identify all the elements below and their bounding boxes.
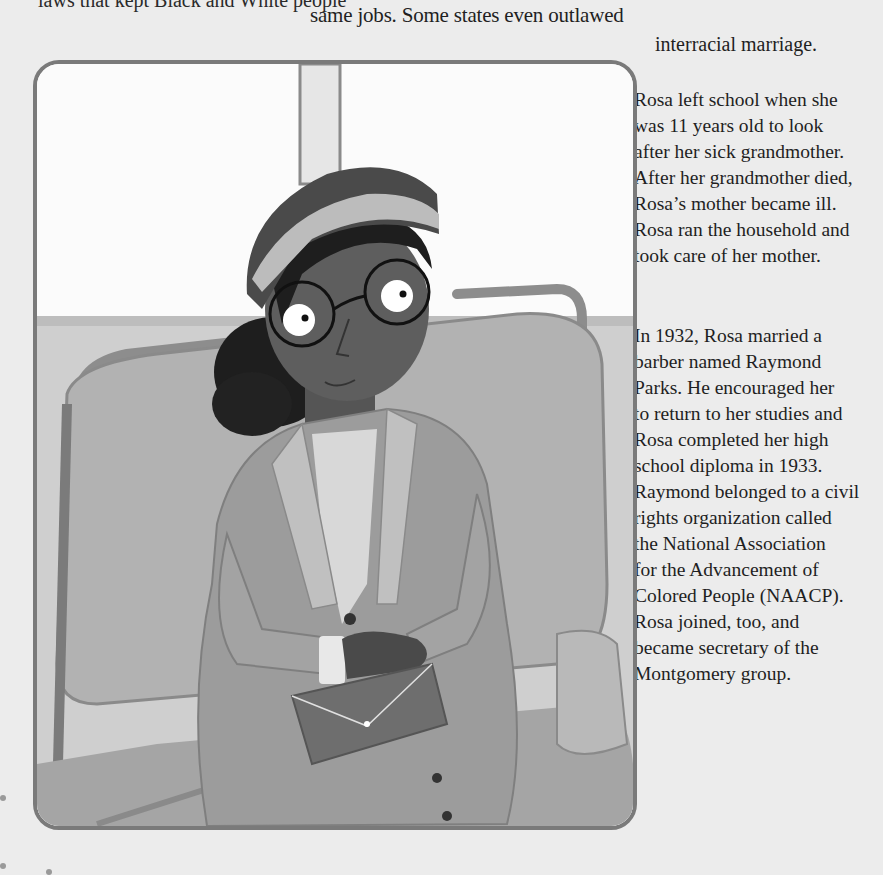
text-line: Raymond belonged to a civil [634,479,883,505]
text-line: Rosa left school when she [634,87,883,113]
text-line: Colored People (NAACP). [634,583,883,609]
text-line: Rosa ran the household and [634,217,883,243]
paragraph-marriage-naacp: In 1932, Rosa married a barber named Ray… [634,323,883,687]
text-line: Rosa completed her high [634,427,883,453]
text-line: rights organization called [634,505,883,531]
illustration-frame [33,60,637,830]
text-line: Montgomery group. [634,661,883,687]
text-line: to return to her studies and [634,401,883,427]
text-line: for the Advancement of [634,557,883,583]
text-line: After her grandmother died, [634,165,883,191]
text-line: In 1932, Rosa married a [634,323,883,349]
decorative-dot [0,795,6,801]
text-line: took care of her mother. [634,243,883,269]
decorative-dot [0,863,6,869]
text-line: was 11 years old to look [634,113,883,139]
decorative-dot [46,869,52,875]
text-line: Rosa’s mother became ill. [634,191,883,217]
top-line-marriage: interracial marriage. [655,31,817,57]
top-clipped-text: laws that kept Black and White people [38,0,346,12]
top-line-jobs: same jobs. Some states even outlawed [310,2,624,28]
text-line: after her sick grandmother. [634,139,883,165]
text-line: Parks. He encouraged her [634,375,883,401]
text-line: Rosa joined, too, and [634,609,883,635]
text-line: became secretary of the [634,635,883,661]
rosa-parks-illustration [37,64,633,826]
text-line: barber named Raymond [634,349,883,375]
text-line: the National Association [634,531,883,557]
text-line: school diploma in 1933. [634,453,883,479]
paragraph-childhood: Rosa left school when she was 11 years o… [634,87,883,269]
